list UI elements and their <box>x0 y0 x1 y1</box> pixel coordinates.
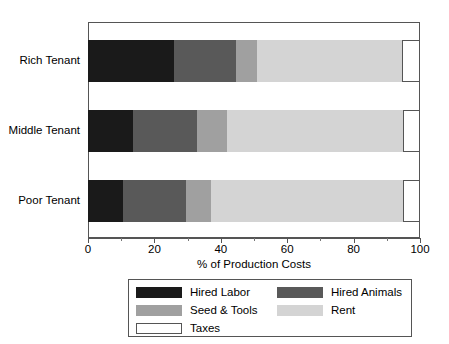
bar-segment-rich-tenant-hired-labor <box>88 40 174 82</box>
legend-swatch-rent-icon <box>277 305 323 316</box>
bar-row-middle-tenant <box>88 110 420 152</box>
legend-item-taxes: Taxes <box>136 321 220 335</box>
x-minor-tick-30 <box>188 238 189 241</box>
x-minor-tick-70 <box>320 238 321 241</box>
legend-item-rent: Rent <box>277 303 355 317</box>
category-label-poor-tenant: Poor Tenant <box>18 194 80 206</box>
legend-swatch-taxes-icon <box>136 323 182 334</box>
legend: Hired Labor Hired Animals Seed & Tools R… <box>128 279 412 337</box>
bar-segment-poor-tenant-hired-animals <box>123 180 186 222</box>
legend-label-hired-labor: Hired Labor <box>190 286 250 298</box>
bar-segment-poor-tenant-seed-tools <box>186 180 211 222</box>
legend-swatch-seed-tools-icon <box>136 305 182 316</box>
stacked-bar-chart: Rich Tenant Middle Tenant Poor Tenant 02… <box>0 0 449 344</box>
bar-segment-middle-tenant-hired-animals <box>133 110 197 152</box>
bar-segment-middle-tenant-seed-tools <box>197 110 227 152</box>
legend-label-seed-tools: Seed & Tools <box>190 304 258 316</box>
bar-segment-rich-tenant-hired-animals <box>174 40 235 82</box>
bar-segment-middle-tenant-taxes <box>403 110 420 152</box>
bar-segment-middle-tenant-rent <box>227 110 403 152</box>
x-tick-label-100: 100 <box>400 243 440 256</box>
bar-segment-poor-tenant-hired-labor <box>88 180 123 222</box>
bar-segment-poor-tenant-taxes <box>403 180 420 222</box>
x-tick-label-40: 40 <box>201 243 241 256</box>
category-label-middle-tenant: Middle Tenant <box>9 124 80 136</box>
bar-segment-poor-tenant-rent <box>211 180 404 222</box>
x-tick-label-60: 60 <box>267 243 307 256</box>
legend-item-hired-labor: Hired Labor <box>136 285 250 299</box>
bar-segment-rich-tenant-seed-tools <box>236 40 258 82</box>
category-label-rich-tenant: Rich Tenant <box>19 54 80 66</box>
x-axis-title: % of Production Costs <box>88 258 420 270</box>
legend-swatch-hired-animals-icon <box>277 287 323 298</box>
legend-label-rent: Rent <box>331 304 355 316</box>
x-tick-label-20: 20 <box>134 243 174 256</box>
bar-segment-rich-tenant-rent <box>257 40 401 82</box>
legend-swatch-hired-labor-icon <box>136 287 182 298</box>
x-tick-label-0: 0 <box>68 243 108 256</box>
x-tick-label-80: 80 <box>334 243 374 256</box>
legend-label-hired-animals: Hired Animals <box>331 286 402 298</box>
legend-label-taxes: Taxes <box>190 322 220 334</box>
legend-item-hired-animals: Hired Animals <box>277 285 402 299</box>
x-minor-tick-90 <box>387 238 388 241</box>
bar-segment-rich-tenant-taxes <box>402 40 420 82</box>
bar-row-rich-tenant <box>88 40 420 82</box>
x-minor-tick-50 <box>254 238 255 241</box>
category-axis-labels: Rich Tenant Middle Tenant Poor Tenant <box>0 22 84 238</box>
legend-item-seed-tools: Seed & Tools <box>136 303 258 317</box>
bar-segment-middle-tenant-hired-labor <box>88 110 133 152</box>
x-minor-tick-10 <box>121 238 122 241</box>
bars-container <box>88 22 420 238</box>
bar-row-poor-tenant <box>88 180 420 222</box>
